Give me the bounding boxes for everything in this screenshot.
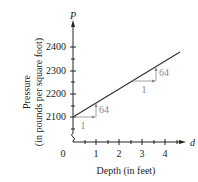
x-axis [73,139,186,145]
y-tick: 2100 [46,111,66,122]
x-tick: 4 [163,148,168,159]
pressure-depth-chart: Pressure (in pounds per square foot) P 2… [0,0,198,182]
y-tick: 2300 [46,65,66,76]
y-tick: 2200 [46,88,66,99]
x-axis-var: d [190,137,196,148]
y-axis-var: P [69,10,76,21]
x-tick: 1 [94,148,99,159]
y-axis [70,20,76,142]
slope-triangle-2 [133,67,158,83]
svg-text:(in pounds per square foot): (in pounds per square foot) [33,38,45,146]
slope-triangle-1 [73,103,98,119]
origin-label: 0 [61,148,66,159]
data-line [73,52,180,117]
y-axis-label: Pressure (in pounds per square foot) [21,38,45,146]
rise-label: 64 [159,67,169,78]
svg-text:Pressure: Pressure [21,75,32,109]
x-axis-label: Depth (in feet) [97,165,156,177]
run-label: 1 [81,120,86,131]
y-tick: 2400 [46,41,66,52]
rise-label: 64 [99,104,109,115]
x-tick: 2 [117,148,122,159]
run-label: 1 [142,84,147,95]
x-tick: 3 [140,148,145,159]
